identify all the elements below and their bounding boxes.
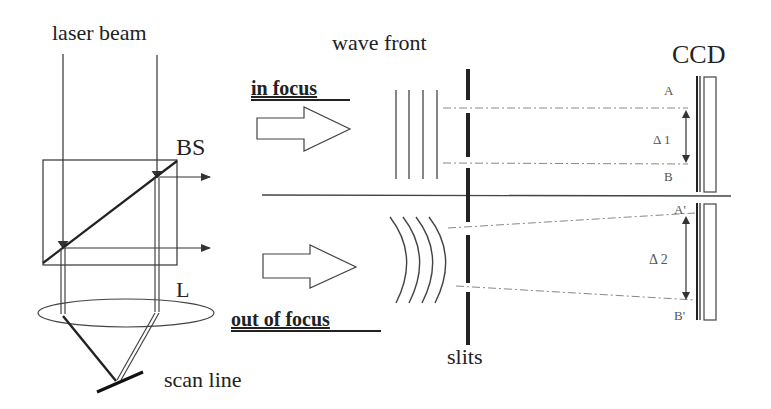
delta-2-label: Δ 2 bbox=[649, 252, 668, 267]
ccd-upper bbox=[697, 76, 716, 192]
out-of-focus-arrow-icon bbox=[263, 245, 356, 288]
divider-line bbox=[262, 195, 731, 196]
point-a-prime-label: A' bbox=[674, 202, 686, 217]
slits-label: slits bbox=[447, 344, 482, 369]
lens-label: L bbox=[176, 277, 189, 302]
return-beams bbox=[61, 178, 159, 314]
bs-output-arrows bbox=[63, 177, 210, 248]
delta-2-arrow bbox=[682, 216, 690, 300]
delta-1-arrow bbox=[682, 110, 690, 163]
ccd-lower bbox=[697, 203, 716, 320]
point-a-label: A bbox=[664, 83, 674, 98]
curved-wave-fronts bbox=[390, 217, 446, 303]
in-focus-arrow-icon bbox=[257, 107, 350, 151]
in-focus-rays bbox=[443, 108, 688, 164]
ccd-label: CCD bbox=[672, 40, 725, 69]
focused-beams bbox=[63, 313, 159, 381]
scan-line-label: scan line bbox=[164, 367, 242, 392]
point-b-label: B bbox=[664, 169, 673, 184]
plane-wave-fronts bbox=[396, 90, 437, 179]
point-b-prime-label: B' bbox=[674, 308, 685, 323]
optical-diagram: laser beam BS L scan line in focus w bbox=[0, 0, 771, 409]
out-of-focus-label: out of focus bbox=[231, 308, 330, 330]
delta-1-label: Δ 1 bbox=[653, 132, 670, 147]
incoming-laser-beams bbox=[58, 54, 162, 248]
laser-beam-label: laser beam bbox=[52, 20, 147, 45]
in-focus-label: in focus bbox=[251, 77, 317, 99]
wave-front-label: wave front bbox=[332, 30, 427, 55]
bs-label: BS bbox=[176, 134, 205, 160]
